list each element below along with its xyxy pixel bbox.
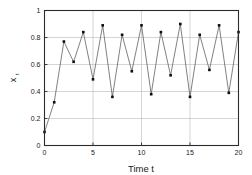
data-point-marker <box>82 31 85 34</box>
y-tick-label: 0 <box>37 142 41 149</box>
x-axis-tick-labels: 05101520 <box>43 149 243 156</box>
y-tick-label: 0.8 <box>31 34 41 41</box>
x-tick-label: 15 <box>186 149 194 156</box>
gridlines <box>45 11 239 146</box>
y-axis-title: x t <box>8 73 20 82</box>
x-tick-label: 0 <box>43 149 47 156</box>
time-series-plot: 05101520 00.20.40.60.81 Time t x t <box>0 0 252 175</box>
data-point-marker <box>92 78 95 81</box>
data-point-marker <box>72 61 75 64</box>
data-point-marker <box>53 101 56 104</box>
data-point-marker <box>198 34 201 37</box>
y-axis-title-subscript: t <box>14 73 20 75</box>
data-point-marker <box>101 24 104 27</box>
data-point-marker <box>228 92 231 95</box>
y-tick-label: 0.6 <box>31 61 41 68</box>
x-axis-title: Time t <box>128 163 154 174</box>
data-point-marker <box>150 93 153 96</box>
data-point-marker <box>131 70 134 73</box>
data-point-marker <box>208 69 211 72</box>
data-point-marker <box>63 40 66 43</box>
data-point-marker <box>121 34 124 37</box>
y-tick-label: 0.2 <box>31 115 41 122</box>
y-axis-title-main: x <box>8 77 18 82</box>
y-axis-tick-labels: 00.20.40.60.81 <box>31 7 41 149</box>
chart-figure: 05101520 00.20.40.60.81 Time t x t <box>0 0 252 175</box>
data-point-marker <box>169 74 172 77</box>
data-point-marker <box>179 23 182 26</box>
data-point-marker <box>111 96 114 99</box>
x-tick-label: 5 <box>91 149 95 156</box>
data-point-marker <box>218 24 221 27</box>
data-point-marker <box>140 24 143 27</box>
x-tick-label: 20 <box>235 149 243 156</box>
data-point-marker <box>160 31 163 34</box>
y-tick-label: 0.4 <box>31 88 41 95</box>
x-tick-label: 10 <box>138 149 146 156</box>
data-point-marker <box>189 96 192 99</box>
y-tick-label: 1 <box>37 7 41 14</box>
